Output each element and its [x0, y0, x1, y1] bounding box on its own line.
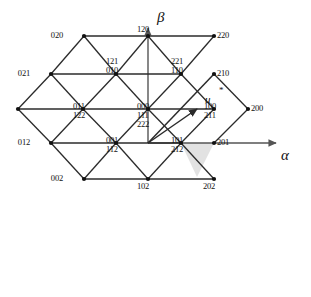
vertex-label-line: 002 [43, 174, 63, 183]
vertex-label-line: 200 [251, 104, 263, 113]
label-102: 102 [137, 182, 149, 191]
vertex-label-line: 010 [106, 66, 118, 75]
lattice-vertex-dot [82, 177, 86, 181]
reference-vector-superscript: * [219, 85, 224, 95]
vertex-label-line: 122 [73, 111, 85, 120]
vertex-label-line: 120 [137, 25, 149, 34]
lattice-vertex-dot [212, 72, 216, 76]
label-202: 202 [203, 182, 215, 191]
lattice-vertex-dot [246, 107, 250, 111]
lattice-edge [51, 36, 84, 74]
vertex-label-line: 212 [171, 145, 183, 154]
vertex-label-line: 211 [204, 111, 216, 120]
lattice-edge [116, 143, 148, 179]
label-120: 120 [137, 25, 149, 34]
vertex-label-line: 201 [217, 138, 229, 147]
alpha-axis-label: α [281, 148, 289, 163]
lattice-edge [18, 74, 51, 109]
hexagon-lattice-svg [0, 0, 311, 297]
lattice-edge [148, 74, 181, 109]
lattice-vertex-dot [212, 34, 216, 38]
diagram-canvas: 0201202200211210102211102100220111220001… [0, 0, 311, 297]
label-101-212: 101212 [171, 136, 183, 154]
label-011-122: 011122 [73, 102, 85, 120]
beta-axis-label: β [157, 10, 164, 25]
vertex-label-line: 012 [10, 138, 30, 147]
label-020: 020 [43, 31, 63, 40]
lattice-edge [181, 36, 214, 74]
label-210: 210 [217, 69, 229, 78]
vertex-label-line: 110 [171, 66, 183, 75]
lattice-vertex-dot [82, 34, 86, 38]
lattice-vertex-dot [49, 141, 53, 145]
vertex-label-line: 021 [10, 69, 30, 78]
vertex-label-line: 112 [106, 145, 118, 154]
lattice-vertex-dot [16, 107, 20, 111]
label-001-112: 001112 [106, 136, 118, 154]
axes-group [148, 28, 276, 143]
label-121-010: 121010 [106, 57, 118, 75]
vertex-label-line: 020 [43, 31, 63, 40]
vertex-label-line: 202 [203, 182, 215, 191]
label-002: 002 [43, 174, 63, 183]
lattice-vertex-dot [146, 34, 150, 38]
reference-vector-label: u [205, 94, 211, 105]
lattice-vertex-dot [49, 72, 53, 76]
vertex-label-line: 210 [217, 69, 229, 78]
label-000-111-222: 000111222 [137, 102, 149, 129]
vertex-label-line: 220 [217, 31, 229, 40]
label-201: 201 [217, 138, 229, 147]
lattice-edge [116, 36, 148, 74]
lattice-vertex-dot [212, 141, 216, 145]
vertex-label-line: 222 [137, 120, 149, 129]
label-200: 200 [251, 104, 263, 113]
label-220: 220 [217, 31, 229, 40]
vertex-label-line: 102 [137, 182, 149, 191]
label-221-110: 221110 [171, 57, 183, 75]
label-021: 021 [10, 69, 30, 78]
label-012: 012 [10, 138, 30, 147]
lattice-edge [83, 74, 116, 109]
